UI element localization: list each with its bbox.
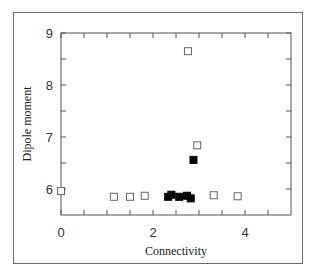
data-points <box>58 48 242 202</box>
x-tick-label: 2 <box>149 225 156 240</box>
open-square-marker <box>194 142 201 149</box>
open-square-marker <box>58 188 65 195</box>
open-square-marker <box>127 193 134 200</box>
filled-square-marker <box>187 195 194 202</box>
open-square-marker <box>234 193 241 200</box>
y-axis-title: Dipole moment <box>20 86 34 162</box>
open-square-marker <box>184 48 191 55</box>
x-tick-label: 4 <box>241 225 248 240</box>
scatter-plot: 0246789 Connectivity Dipole moment <box>0 0 311 276</box>
y-tick-label: 6 <box>46 182 53 197</box>
open-square-marker <box>110 193 117 200</box>
x-axis-title: Connectivity <box>145 244 207 258</box>
open-square-marker <box>141 192 148 199</box>
y-tick-label: 8 <box>46 78 53 93</box>
axes: 0246789 <box>46 26 291 240</box>
plot-area-border <box>61 33 291 215</box>
filled-square-marker <box>190 156 197 163</box>
y-tick-label: 7 <box>46 130 53 145</box>
y-tick-label: 9 <box>46 26 53 41</box>
open-square-marker <box>210 192 217 199</box>
filled-square-marker <box>168 191 175 198</box>
x-tick-label: 0 <box>57 225 64 240</box>
filled-square-marker <box>176 193 183 200</box>
